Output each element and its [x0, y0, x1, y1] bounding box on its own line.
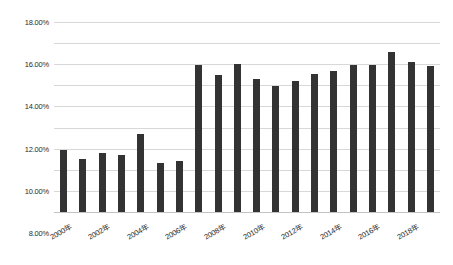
- y-axis-tick-label: 12.00%: [25, 144, 49, 153]
- x-axis-tick-label: 2018年: [388, 221, 419, 246]
- chart-caption-cropped: [0, 257, 453, 265]
- bar: [60, 150, 67, 212]
- bar: [350, 65, 357, 212]
- bar-series: [54, 22, 440, 212]
- bar: [79, 159, 86, 212]
- bar: [118, 155, 125, 212]
- bar: [176, 161, 183, 212]
- bar: [292, 81, 299, 212]
- x-axis-tick-label: 2010年: [234, 221, 265, 246]
- bar: [195, 65, 202, 212]
- bar: [408, 62, 415, 212]
- y-axis-tick-label: 14.00%: [25, 102, 49, 111]
- x-axis-tick-label: 2002年: [80, 221, 111, 246]
- bar: [137, 134, 144, 212]
- gridline: 0.00%: [54, 212, 440, 213]
- chart-title-cropped: [0, 0, 453, 9]
- y-axis-tick-label: 16.00%: [25, 60, 49, 69]
- y-axis-tick-label: 10.00%: [25, 186, 49, 195]
- bar: [311, 74, 318, 212]
- bar: [388, 52, 395, 212]
- x-axis-tick-label: 2008年: [195, 221, 226, 246]
- y-axis-tick-label: 18.00%: [25, 18, 49, 27]
- bar: [330, 71, 337, 212]
- bar-chart-figure: 0.00%2.00%4.00%6.00%8.00%10.00%12.00%14.…: [0, 0, 453, 265]
- x-axis-tick-label: 2012年: [273, 221, 304, 246]
- plot-area: 0.00%2.00%4.00%6.00%8.00%10.00%12.00%14.…: [54, 22, 440, 212]
- x-axis-tick-label: 2016年: [350, 221, 381, 246]
- bar: [369, 65, 376, 212]
- bar: [99, 153, 106, 212]
- x-axis-labels: 2000年2002年2004年2006年2008年2010年2012年2014年…: [54, 214, 440, 244]
- bar: [272, 86, 279, 212]
- bar: [234, 64, 241, 212]
- x-axis-tick-label: 2000年: [41, 221, 72, 246]
- bar: [157, 163, 164, 212]
- x-axis-tick-label: 2006年: [157, 221, 188, 246]
- bar: [215, 75, 222, 212]
- bar: [427, 66, 434, 212]
- x-axis-tick-label: 2014年: [311, 221, 342, 246]
- x-axis-tick-label: 2004年: [118, 221, 149, 246]
- bar: [253, 79, 260, 213]
